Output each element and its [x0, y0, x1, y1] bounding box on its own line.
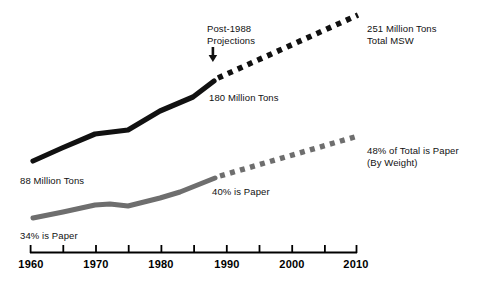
annotation-88-million-tons: 88 Million Tons — [20, 175, 84, 187]
annotation-34-percent-is-paper: 34% is Paper — [20, 230, 78, 242]
x-axis-label-1960: 1960 — [18, 258, 43, 270]
x-axis-label-2000: 2000 — [279, 258, 304, 270]
post-1988-arrow-icon — [209, 47, 218, 62]
x-axis-label-1990: 1990 — [214, 258, 239, 270]
x-axis-label-1970: 1970 — [83, 258, 108, 270]
annotation-post-1988-projections: Post-1988 Projections — [207, 23, 255, 46]
annotation-251-million-tons-total-msw: 251 Million Tons Total MSW — [367, 23, 437, 46]
series-total-msw-historical-line — [33, 81, 214, 161]
x-axis-label-2010: 2010 — [343, 258, 368, 270]
msw-paper-trend-chart: Post-1988 Projections 251 Million Tons T… — [0, 0, 478, 286]
annotation-180-million-tons: 180 Million Tons — [209, 92, 279, 104]
annotation-40-percent-is-paper: 40% is Paper — [212, 186, 270, 198]
annotation-48-percent-paper-by-weight: 48% of Total is Paper (By Weight) — [367, 145, 459, 168]
x-axis-label-1980: 1980 — [148, 258, 173, 270]
series-paper-share-projection-line — [220, 136, 358, 176]
